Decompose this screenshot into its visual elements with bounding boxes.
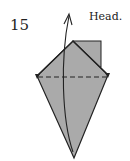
origami-diagram	[0, 0, 130, 161]
